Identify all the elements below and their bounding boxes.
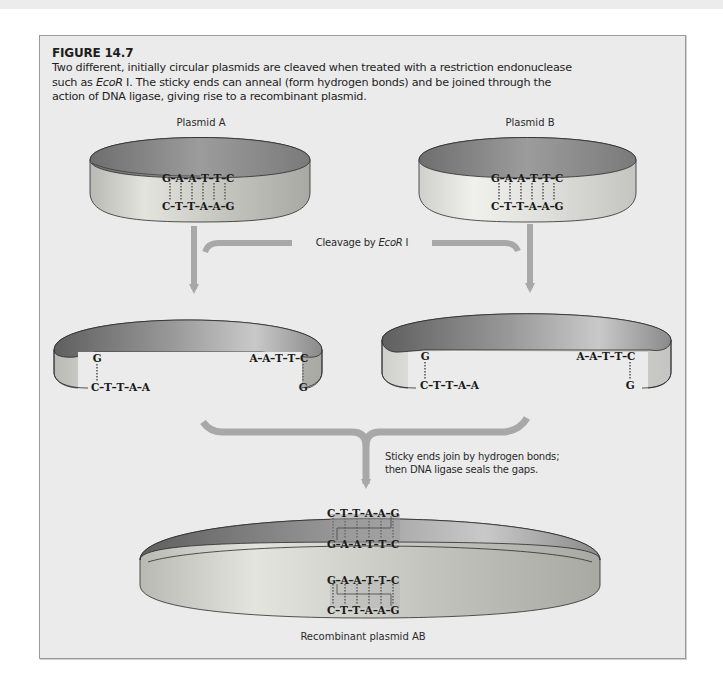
cleaved-b-left-bottom: C–T–T–A–A xyxy=(420,379,480,391)
joining-note-line-2: then DNA ligase seals the gaps. xyxy=(385,463,585,476)
cleaved-a-left-bottom: C–T–T–A–A xyxy=(91,381,151,393)
plasmid-a-top-strand: G–A–A–T–T–C xyxy=(162,172,234,184)
recombinant-front-bottom-strand: C–T–T–A–A–G xyxy=(327,604,400,616)
cleavage-prefix: Cleavage by xyxy=(316,237,379,248)
cleavage-arrows xyxy=(194,224,530,289)
joining-note-line-1: Sticky ends join by hydrogen bonds; xyxy=(385,450,585,463)
plasmid-b-top-strand: G–A–A–T–T–C xyxy=(491,172,563,184)
cleaved-a-right-bottom: G xyxy=(299,381,308,393)
recombinant-plasmid xyxy=(140,514,600,618)
plasmid-b-label: Plasmid B xyxy=(505,117,554,128)
cleaved-a-right-top: A–A–T–T–C xyxy=(248,352,308,364)
cleaved-b-left-top: G xyxy=(421,350,430,362)
plasmid-b-bottom-strand: C–T–T–A–A–G xyxy=(491,200,564,212)
recombinant-label: Recombinant plasmid AB xyxy=(300,631,425,642)
joining-note: Sticky ends join by hydrogen bonds; then… xyxy=(385,450,585,476)
cleavage-enzyme: EcoR xyxy=(378,237,402,248)
plasmid-a-label: Plasmid A xyxy=(176,117,225,128)
plasmid-a-bottom-strand: C–T–T–A–A–G xyxy=(162,200,235,212)
cleaved-b-right-top: A–A–T–T–C xyxy=(575,350,635,362)
cleaved-b-right-bottom: G xyxy=(626,379,635,391)
recombinant-back-bottom-strand: G–A–A–T–T–C xyxy=(327,538,399,550)
cleavage-label: Cleavage by EcoR I xyxy=(292,237,432,248)
recombinant-back-top-strand: C–T–T–A–A–G xyxy=(327,507,400,519)
cleavage-suffix: I xyxy=(403,237,409,248)
cleaved-a-left-top: G xyxy=(93,352,102,364)
plasmid-diagram: Plasmid A Plasmid B G–A–A–T–T–C C–T–T–A–… xyxy=(0,0,723,689)
recombinant-front-top-strand: G–A–A–T–T–C xyxy=(327,574,399,586)
